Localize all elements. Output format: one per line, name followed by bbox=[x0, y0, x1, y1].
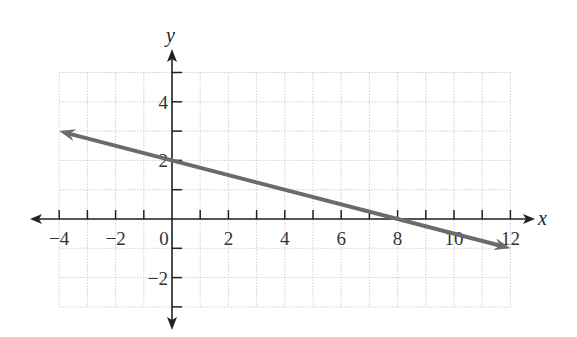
x-tick-label: 6 bbox=[336, 228, 346, 249]
x-tick-label: 0 bbox=[159, 228, 169, 249]
y-tick-label: −2 bbox=[148, 268, 168, 289]
y-axis-label: y bbox=[164, 24, 175, 47]
x-tick-label: 2 bbox=[224, 228, 234, 249]
x-axis-label: x bbox=[537, 207, 547, 229]
x-tick-label: 4 bbox=[280, 228, 290, 249]
x-tick-label: 8 bbox=[393, 228, 403, 249]
coordinate-plane: −4−202468101242−2 x y bbox=[0, 0, 577, 337]
x-tick-label: −2 bbox=[105, 228, 125, 249]
x-tick-label: −4 bbox=[49, 228, 70, 249]
y-tick-label: 4 bbox=[159, 92, 169, 113]
